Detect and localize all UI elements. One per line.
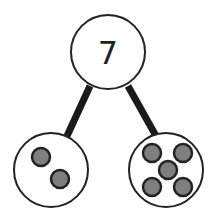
connector-right	[128, 86, 156, 136]
connector-left	[67, 86, 90, 136]
dot	[174, 144, 192, 162]
dot	[51, 170, 69, 188]
dot	[32, 148, 50, 166]
part-circle-left	[14, 133, 88, 207]
whole-number: 7	[98, 34, 118, 72]
dot	[143, 178, 161, 196]
number-bond-diagram: 7	[0, 0, 216, 220]
dot	[174, 178, 192, 196]
dot	[143, 144, 161, 162]
dot	[159, 161, 177, 179]
